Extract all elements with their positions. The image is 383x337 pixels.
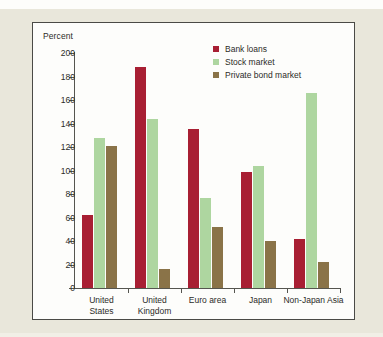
legend-swatch: [213, 59, 219, 65]
bar: [135, 67, 146, 288]
y-tick-label-wrap: 80: [33, 194, 75, 195]
figure-root: Percent 020406080100120140160180200 Unit…: [0, 0, 383, 337]
x-separator-tick: [128, 288, 129, 293]
y-tick-label-wrap: 0: [33, 288, 75, 289]
bar: [147, 119, 158, 288]
y-tick-label: 20: [45, 260, 75, 270]
x-separator-tick: [287, 288, 288, 293]
bar: [94, 138, 105, 288]
bar: [82, 215, 93, 288]
legend-label: Bank loans: [225, 44, 267, 54]
y-tick-label: 0: [45, 283, 75, 293]
y-tick-label: 180: [45, 72, 75, 82]
legend-item: Private bond market: [213, 69, 333, 80]
legend-label: Private bond market: [225, 70, 301, 80]
scan-top-strip: [0, 0, 383, 9]
bar: [200, 198, 211, 288]
x-axis-line: [74, 288, 340, 289]
y-tick-label-wrap: 60: [33, 218, 75, 219]
legend-swatch: [213, 72, 219, 78]
y-tick-label: 100: [45, 166, 75, 176]
bar: [253, 166, 264, 288]
scan-bottom-strip: [0, 333, 383, 337]
y-tick-label: 160: [45, 95, 75, 105]
bar: [294, 239, 305, 288]
y-tick-label-wrap: 120: [33, 147, 75, 148]
legend-label: Stock market: [225, 57, 275, 67]
y-tick-label-wrap: 160: [33, 100, 75, 101]
y-tick-label-wrap: 180: [33, 77, 75, 78]
x-separator-tick: [181, 288, 182, 293]
bar: [265, 241, 276, 288]
y-tick-label: 200: [45, 48, 75, 58]
y-tick-label: 60: [45, 213, 75, 223]
legend-item: Bank loans: [213, 43, 333, 54]
legend: Bank loansStock marketPrivate bond marke…: [213, 43, 333, 82]
bar: [306, 93, 317, 288]
bar: [212, 227, 223, 288]
y-tick-label: 120: [45, 142, 75, 152]
legend-swatch: [213, 46, 219, 52]
bars-layer: [75, 53, 340, 288]
y-tick-label: 40: [45, 236, 75, 246]
x-axis-category-label: Non-Japan Asia: [279, 295, 348, 306]
bar: [318, 262, 329, 288]
bar: [188, 129, 199, 288]
x-separator-tick: [234, 288, 235, 293]
y-tick-label-wrap: 40: [33, 241, 75, 242]
y-axis-title: Percent: [43, 31, 73, 41]
y-tick-label-wrap: 100: [33, 171, 75, 172]
y-tick-label-wrap: 140: [33, 124, 75, 125]
y-tick-label: 80: [45, 189, 75, 199]
y-tick-label-wrap: 200: [33, 53, 75, 54]
bar: [241, 172, 252, 288]
bar: [106, 146, 117, 288]
y-tick-label-wrap: 20: [33, 265, 75, 266]
bar: [159, 269, 170, 288]
plot-container: Percent 020406080100120140160180200 Unit…: [33, 23, 354, 319]
legend-item: Stock market: [213, 56, 333, 67]
chart-panel: Percent 020406080100120140160180200 Unit…: [32, 22, 355, 320]
x-separator-tick: [340, 288, 341, 293]
y-tick-label: 140: [45, 119, 75, 129]
